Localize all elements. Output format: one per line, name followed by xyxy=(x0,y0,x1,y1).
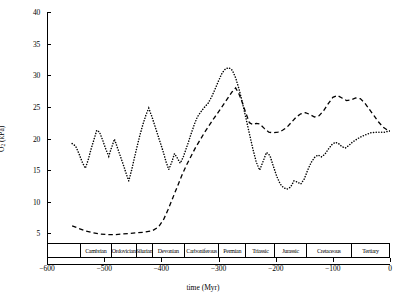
period-tertiary: Tertiary xyxy=(352,244,389,257)
y-tick-mark xyxy=(47,44,51,45)
x-tick-mark xyxy=(390,258,391,262)
x-tick-label: −300 xyxy=(211,264,226,273)
x-tick-label: 0 xyxy=(388,264,392,273)
x-axis-label: time (Myr) xyxy=(0,283,406,292)
x-tick-mark xyxy=(161,258,162,262)
y-tick-label: 40 xyxy=(33,8,40,17)
period-ordovician: Ordovician xyxy=(112,244,137,257)
y-tick-label: 20 xyxy=(33,134,40,143)
x-tick-label: −500 xyxy=(96,264,111,273)
y-tick-mark xyxy=(47,170,51,171)
y-tick-label: 25 xyxy=(33,102,40,111)
x-tick-label: −200 xyxy=(268,264,283,273)
axes-frame xyxy=(47,12,390,265)
period-cambrian: Cambrian xyxy=(81,244,112,257)
period-permian: Permian xyxy=(219,244,246,257)
y-tick-mark xyxy=(47,75,51,76)
y-tick-mark xyxy=(47,233,51,234)
x-tick-label: −400 xyxy=(154,264,169,273)
x-tick-label: −600 xyxy=(39,264,54,273)
y-tick-label: 15 xyxy=(33,166,40,175)
y-tick-mark xyxy=(47,12,51,13)
y-tick-mark xyxy=(47,139,51,140)
period-jurassic: Jurassic xyxy=(275,244,306,257)
x-tick-label: −100 xyxy=(325,264,340,273)
x-tick-mark xyxy=(219,258,220,262)
x-tick-mark xyxy=(47,258,48,262)
plot-area xyxy=(47,12,390,265)
y-tick-label: 10 xyxy=(33,197,40,206)
x-tick-mark xyxy=(276,258,277,262)
period-carboniferous: Carboniferous xyxy=(185,244,219,257)
geological-period-band: CambrianOrdovicianSilurianDevonianCarbon… xyxy=(47,243,390,258)
y-axis-label-unit: (kPa) xyxy=(0,126,6,144)
x-tick-mark xyxy=(104,258,105,262)
period-silurian: Silurian xyxy=(137,244,153,257)
y-axis-label-subscript: 2 xyxy=(0,144,6,147)
period-devonian: Devonian xyxy=(153,244,185,257)
x-tick-mark xyxy=(333,258,334,262)
y-tick-mark xyxy=(47,202,51,203)
y-axis-label-base: O xyxy=(0,147,6,152)
y-tick-label: 30 xyxy=(33,71,40,80)
y-tick-label: 5 xyxy=(36,229,40,238)
y-axis-label: O2 (kPa) xyxy=(0,126,6,152)
period-cretaceous: Cretaceous xyxy=(307,244,352,257)
period-triassic: Triassic xyxy=(246,244,275,257)
period-blank xyxy=(48,244,81,257)
y-tick-mark xyxy=(47,107,51,108)
figure: O2 (kPa) CambrianOrdovicianSilurianDevon… xyxy=(0,0,406,300)
y-tick-label: 35 xyxy=(33,39,40,48)
